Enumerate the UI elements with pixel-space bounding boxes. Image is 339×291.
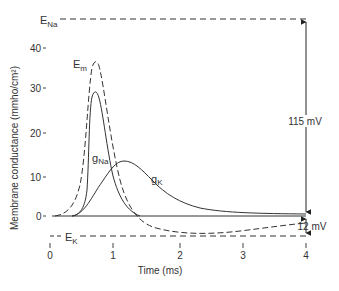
x-tick-1: 1 bbox=[110, 250, 116, 261]
y-tick-40: 40 bbox=[30, 43, 42, 54]
y-tick-10: 10 bbox=[30, 172, 42, 183]
y-tick-30: 30 bbox=[30, 83, 42, 94]
gk-curve bbox=[72, 161, 306, 216]
x-tick-2: 2 bbox=[177, 250, 183, 261]
x-axis-label: Time (ms) bbox=[138, 265, 183, 276]
y-tick-0: 0 bbox=[36, 211, 42, 222]
x-tick-3: 3 bbox=[240, 250, 246, 261]
annotation-115mv: 115 mV bbox=[288, 116, 322, 127]
y-axis-label: Membrane conductance (mmho/cm²) bbox=[9, 66, 20, 230]
em-label: Em bbox=[73, 58, 87, 73]
x-axis: 0 1 2 3 4 bbox=[47, 243, 309, 261]
gna-label: gNa bbox=[92, 152, 109, 166]
y-tick-20: 20 bbox=[30, 128, 42, 139]
x-tick-0: 0 bbox=[47, 250, 53, 261]
em-curve bbox=[55, 62, 306, 234]
ena-label: ENa bbox=[40, 14, 58, 29]
x-tick-4: 4 bbox=[303, 250, 309, 261]
gk-label: gK bbox=[151, 173, 163, 187]
action-potential-chart: ENa EK 40 30 20 10 0 Membrane conductanc… bbox=[0, 0, 339, 291]
gna-curve bbox=[72, 92, 140, 216]
y-axis: 40 30 20 10 0 bbox=[30, 43, 46, 222]
ek-label: EK bbox=[65, 231, 78, 246]
annotation-12mv: 12 mV bbox=[298, 221, 327, 232]
